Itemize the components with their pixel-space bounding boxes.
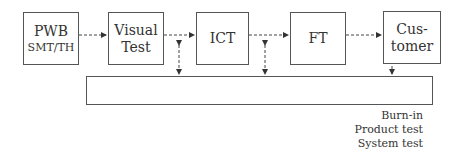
stage-label: Visual xyxy=(114,22,157,39)
note-system-test: System test xyxy=(358,137,423,151)
stage-label-2: tomer xyxy=(391,38,433,55)
stage-pwb: PWB SMT/TH xyxy=(23,12,79,65)
stage-label: PWB xyxy=(34,23,68,40)
stage-sublabel: SMT/TH xyxy=(28,40,75,55)
stage-visual-test: Visual Test xyxy=(108,12,164,65)
stage-ft: FT xyxy=(290,12,346,65)
feedback-box xyxy=(86,76,433,105)
stage-ict: ICT xyxy=(196,12,249,65)
note-burn-in: Burn-in xyxy=(381,109,423,123)
stage-label: ICT xyxy=(210,30,236,47)
stage-label: FT xyxy=(308,30,327,47)
stage-customer: Cus- tomer xyxy=(383,11,441,64)
note-product-test: Product test xyxy=(355,123,423,137)
stage-label: Cus- xyxy=(396,21,428,38)
stage-label-2: Test xyxy=(121,39,150,56)
